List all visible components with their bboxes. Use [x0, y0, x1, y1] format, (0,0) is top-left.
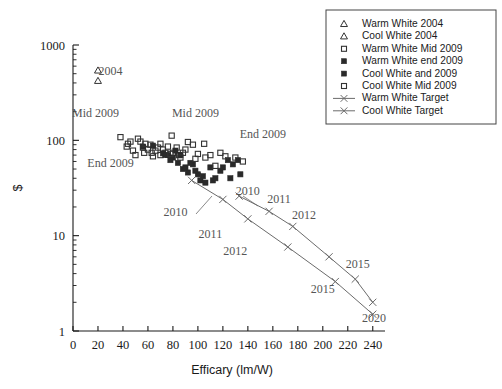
data-point-open-square — [169, 133, 174, 138]
x-tick-label: 40 — [117, 338, 130, 352]
annotation-label: 2010 — [163, 205, 187, 219]
leader-line — [196, 196, 212, 214]
data-point-open-triangle — [94, 77, 101, 83]
data-point-filled-square — [208, 165, 213, 170]
y-tick-label: 100 — [46, 134, 65, 148]
legend-item-label: Cool White Mid 2009 — [362, 80, 457, 91]
data-point-filled-square — [188, 160, 193, 165]
data-point-open-square — [208, 153, 213, 158]
data-point-open-square — [202, 141, 207, 146]
data-point-open-square — [240, 159, 245, 164]
x-tick-label: 180 — [288, 338, 307, 352]
annotation-label: 2011 — [199, 227, 223, 241]
x-tick-label: 240 — [363, 338, 382, 352]
legend-item-label: Warm White Target — [362, 92, 449, 103]
y-tick-label: 1000 — [40, 39, 65, 53]
data-point-filled-square — [193, 168, 198, 173]
x-tick-label: 200 — [313, 338, 332, 352]
x-tick-label: 220 — [338, 338, 357, 352]
data-point-filled-square — [342, 71, 347, 76]
data-point-filled-square — [213, 176, 218, 181]
annotation-label: 2015 — [346, 257, 370, 271]
y-axis-title: $ — [11, 184, 25, 191]
data-point-filled-square — [150, 143, 155, 148]
annotation-label: 2004 — [98, 64, 122, 78]
annotation-label: 2011 — [267, 192, 291, 206]
legend-item-label: Warm White Mid 2009 — [362, 43, 463, 54]
data-point-open-square — [218, 150, 223, 155]
x-tick-label: 60 — [142, 338, 155, 352]
data-point-filled-square — [220, 165, 225, 170]
data-point-filled-square — [175, 160, 180, 165]
annotation-label: 2020 — [362, 311, 386, 325]
data-point-open-square — [142, 150, 147, 155]
data-point-filled-square — [203, 180, 208, 185]
annotation-label: 2012 — [223, 244, 247, 258]
annotation-label: 2010 — [236, 184, 260, 198]
data-point-open-square — [165, 144, 170, 149]
x-tick-label: 100 — [189, 338, 208, 352]
data-point-open-square — [203, 155, 208, 160]
data-point-open-square — [118, 135, 123, 140]
legend-item-label: Cool White Target — [362, 105, 443, 116]
legend-item-label: Warm White 2004 — [362, 18, 443, 29]
data-point-filled-square — [185, 170, 190, 175]
data-point-filled-square — [235, 158, 240, 163]
legend-item-label: Warm White end 2009 — [362, 55, 463, 66]
annotation-label: End 2009 — [240, 127, 286, 141]
data-point-filled-square — [183, 165, 188, 170]
x-tick-label: 0 — [70, 338, 76, 352]
legend-item-label: Cool White 2004 — [362, 30, 438, 41]
data-point-filled-square — [168, 158, 173, 163]
annotation-label: 2015 — [311, 282, 335, 296]
data-point-filled-square — [238, 172, 243, 177]
annotation-label: Mid 2009 — [172, 106, 219, 120]
data-point-open-square — [213, 163, 218, 168]
data-point-filled-square — [230, 162, 235, 167]
x-axis-title: Efficary (lm/W) — [191, 363, 273, 377]
chart-canvas: 020406080100120140160180200220240Efficar… — [0, 0, 502, 389]
data-point-filled-square — [342, 59, 347, 64]
data-point-filled-square — [198, 178, 203, 183]
x-tick-label: 20 — [92, 338, 105, 352]
data-point-open-square — [185, 139, 190, 144]
x-tick-label: 120 — [214, 338, 233, 352]
data-point-open-square — [190, 142, 195, 147]
data-point-filled-square — [173, 148, 178, 153]
chart-figure: 020406080100120140160180200220240Efficar… — [0, 0, 502, 389]
x-tick-label: 80 — [167, 338, 180, 352]
data-point-filled-square — [228, 176, 233, 181]
x-tick-label: 160 — [263, 338, 282, 352]
annotation-label: 2012 — [292, 208, 316, 222]
y-tick-label: 1 — [59, 325, 65, 339]
legend-item-label: Cool White and 2009 — [362, 68, 457, 79]
x-tick-label: 140 — [238, 338, 257, 352]
annotation-label: End 2009 — [87, 156, 133, 170]
y-tick-label: 10 — [53, 229, 66, 243]
annotation-label: Mid 2009 — [72, 106, 119, 120]
data-point-filled-square — [163, 153, 168, 158]
